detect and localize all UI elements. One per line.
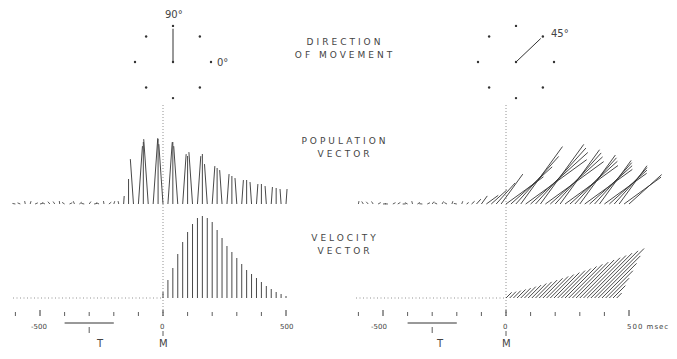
label-direction-line1: DIRECTION	[290, 36, 400, 49]
left-tick-neg500: -500	[31, 323, 47, 331]
right-45-label: 45°	[551, 28, 569, 39]
label-velocity-line1: VELOCITY	[290, 232, 400, 245]
label-direction-line2: OF MOVEMENT	[290, 49, 400, 62]
label-direction: DIRECTION OF MOVEMENT	[290, 36, 400, 62]
label-velocity: VELOCITY VECTOR	[290, 232, 400, 258]
left-90-label: 90°	[165, 9, 183, 20]
label-population: POPULATION VECTOR	[290, 135, 400, 161]
left-T-marker: T	[97, 338, 103, 349]
label-velocity-line2: VECTOR	[290, 245, 400, 258]
label-population-line2: VECTOR	[290, 148, 400, 161]
right-tick-neg500: -500	[371, 323, 387, 331]
left-tick-500: 500	[280, 323, 293, 331]
label-population-line1: POPULATION	[290, 135, 400, 148]
right-tick-0: 0	[503, 323, 507, 331]
right-M-marker: M	[502, 338, 511, 349]
left-M-marker: M	[159, 338, 168, 349]
right-T-marker: T	[437, 338, 443, 349]
right-tick-500-msec: 500 msec	[627, 323, 669, 331]
left-tick-0: 0	[160, 323, 164, 331]
left-0-label: 0°	[217, 57, 228, 68]
